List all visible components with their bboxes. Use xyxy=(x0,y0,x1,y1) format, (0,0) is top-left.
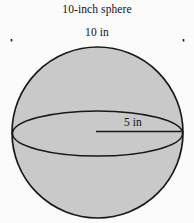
diameter-label-wrap: 10 in xyxy=(0,27,194,39)
figure-title: 10-inch sphere xyxy=(0,4,194,16)
sphere-outline-circle xyxy=(12,47,183,218)
radius-label: 5 in xyxy=(124,117,142,129)
sphere-body xyxy=(12,47,183,218)
sphere-figure: 10-inch sphere 10 in 5 in xyxy=(0,0,194,223)
diameter-label: 10 in xyxy=(81,26,113,38)
